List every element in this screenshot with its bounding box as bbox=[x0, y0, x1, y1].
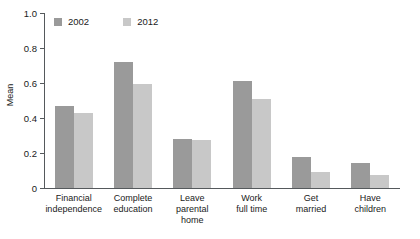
category-label: Havechildren bbox=[341, 193, 400, 215]
category-label: Leaveparentalhome bbox=[163, 193, 222, 226]
bar-group bbox=[233, 13, 271, 188]
bar-group bbox=[292, 13, 330, 188]
y-axis-title: Mean bbox=[0, 0, 20, 190]
y-tick-label: 0.6 bbox=[24, 78, 37, 89]
category-label-line: Get bbox=[281, 193, 340, 204]
y-tick-label: 1.0 bbox=[24, 8, 37, 19]
category-label-line: Financial bbox=[44, 193, 103, 204]
category-label-line: married bbox=[281, 204, 340, 215]
y-tick-label: 0.8 bbox=[24, 43, 37, 54]
bar bbox=[114, 62, 133, 188]
bar bbox=[292, 157, 311, 189]
category-label: Getmarried bbox=[281, 193, 340, 215]
y-tick-mark bbox=[40, 13, 44, 14]
category-label-line: home bbox=[163, 215, 222, 226]
category-label-line: independence bbox=[44, 204, 103, 215]
category-label-line: Work bbox=[222, 193, 281, 204]
bar bbox=[311, 172, 330, 188]
category-label: Financialindependence bbox=[44, 193, 103, 215]
category-label: Completeeducation bbox=[103, 193, 162, 215]
bar bbox=[370, 175, 389, 188]
bar-group bbox=[173, 13, 211, 188]
bar-chart: Mean 20022012 00.20.40.60.81.0 Financial… bbox=[0, 0, 420, 239]
category-label-line: education bbox=[103, 204, 162, 215]
y-tick-mark bbox=[40, 118, 44, 119]
y-tick-label: 0.2 bbox=[24, 148, 37, 159]
y-axis-line bbox=[44, 13, 45, 188]
plot-area: 00.20.40.60.81.0 FinancialindependenceCo… bbox=[44, 13, 400, 188]
y-tick-label: 0 bbox=[32, 183, 37, 194]
x-axis-line bbox=[44, 188, 400, 189]
bar bbox=[173, 139, 192, 188]
bar bbox=[252, 99, 271, 188]
bar-group bbox=[114, 13, 152, 188]
category-label-line: children bbox=[341, 204, 400, 215]
bar bbox=[351, 163, 370, 188]
bar-group bbox=[351, 13, 389, 188]
category-label-line: Have bbox=[341, 193, 400, 204]
bar bbox=[133, 84, 152, 188]
y-tick-label: 0.4 bbox=[24, 113, 37, 124]
bar bbox=[74, 113, 93, 188]
y-tick-mark bbox=[40, 48, 44, 49]
bar-group bbox=[55, 13, 93, 188]
category-label: Workfull time bbox=[222, 193, 281, 215]
y-tick-mark bbox=[40, 153, 44, 154]
bar bbox=[192, 140, 211, 188]
bar bbox=[55, 106, 74, 188]
category-label-line: Complete bbox=[103, 193, 162, 204]
category-label-line: Leave bbox=[163, 193, 222, 204]
category-label-line: parental bbox=[163, 204, 222, 215]
y-tick-mark bbox=[40, 188, 44, 189]
y-axis-title-text: Mean bbox=[5, 84, 15, 107]
category-label-line: full time bbox=[222, 204, 281, 215]
y-tick-mark bbox=[40, 83, 44, 84]
bar bbox=[233, 81, 252, 188]
